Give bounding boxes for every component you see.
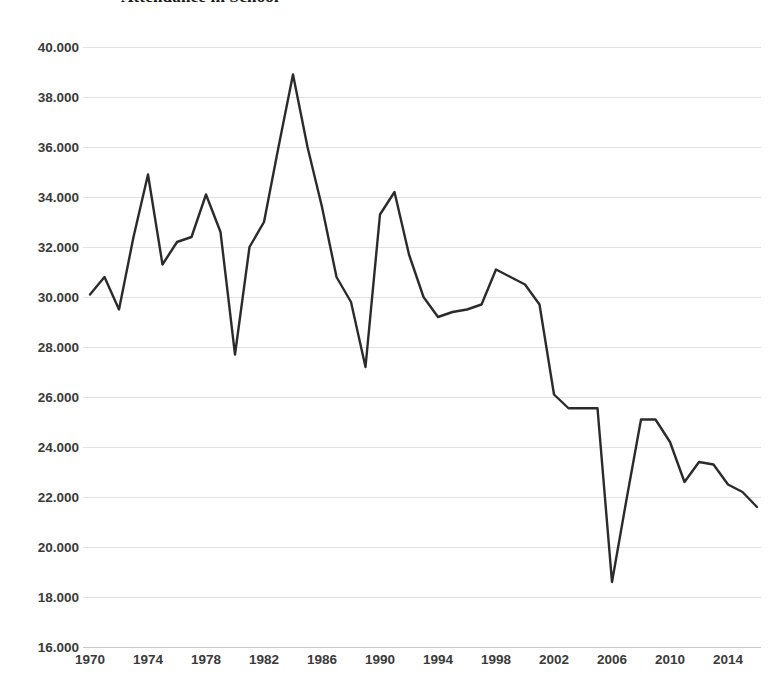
y-axis-tick-label: 30.000 [5,290,79,305]
y-axis-tick-label: 22.000 [5,490,79,505]
plot-area [83,47,761,647]
data-series-line [83,47,761,647]
x-axis-tick-label: 2006 [597,652,627,667]
y-axis-tick-label: 28.000 [5,340,79,355]
y-axis: 16.00018.00020.00022.00024.00026.00028.0… [0,0,79,684]
x-axis-tick-label: 1986 [307,652,337,667]
x-axis-tick-label: 1974 [133,652,163,667]
x-axis-tick-label: 2002 [539,652,569,667]
chart-figure: Attendance in School 16.00018.00020.0002… [0,0,773,684]
axis-baseline [83,647,761,648]
y-axis-tick-label: 20.000 [5,540,79,555]
x-axis-tick-label: 1970 [75,652,105,667]
y-axis-tick-label: 40.000 [5,40,79,55]
y-axis-tick-label: 32.000 [5,240,79,255]
y-axis-tick-label: 16.000 [5,640,79,655]
x-axis-tick-label: 2014 [713,652,743,667]
y-axis-tick-label: 26.000 [5,390,79,405]
x-axis-tick-label: 1982 [249,652,279,667]
y-axis-tick-label: 24.000 [5,440,79,455]
x-axis-tick-label: 1998 [481,652,511,667]
y-axis-tick-label: 18.000 [5,590,79,605]
y-axis-tick-label: 36.000 [5,140,79,155]
x-axis-tick-label: 1994 [423,652,453,667]
x-axis-tick-label: 2010 [655,652,685,667]
x-axis-tick-label: 1978 [191,652,221,667]
x-axis: 1970197419781982198619901994199820022006… [83,652,773,676]
y-axis-tick-label: 34.000 [5,190,79,205]
y-axis-tick-label: 38.000 [5,90,79,105]
x-axis-tick-label: 1990 [365,652,395,667]
